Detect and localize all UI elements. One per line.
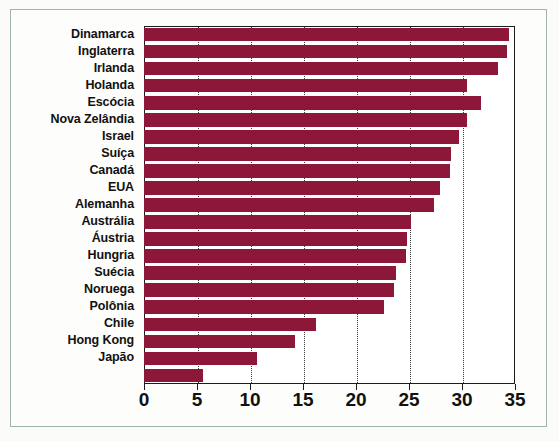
- bar-row: [144, 266, 515, 280]
- bar-row: [144, 113, 515, 127]
- category-label: EUA: [108, 181, 134, 194]
- category-label: Hungria: [87, 249, 134, 262]
- x-tick-label: 10: [239, 389, 260, 411]
- category-label: Dinamarca: [71, 28, 134, 41]
- bar-row: [144, 369, 515, 383]
- category-label: Suécia: [94, 266, 134, 279]
- bar: [144, 79, 467, 93]
- bar-row: [144, 96, 515, 110]
- bar: [144, 318, 316, 332]
- category-label: Israel: [102, 130, 134, 143]
- bar: [144, 28, 509, 42]
- category-label: Hong Kong: [68, 334, 134, 347]
- bar-row: [144, 335, 515, 349]
- y-axis-category-labels: DinamarcaInglaterraIrlandaHolandaEscócia…: [0, 26, 140, 384]
- x-tick-label: 0: [139, 389, 150, 411]
- bar-row: [144, 318, 515, 332]
- x-tick-label: 30: [451, 389, 472, 411]
- category-label: Áustria: [92, 232, 134, 245]
- bar: [144, 113, 467, 127]
- bar-row: [144, 249, 515, 263]
- bar-row: [144, 232, 515, 246]
- category-label: Suíça: [101, 147, 134, 160]
- category-label: Chile: [104, 317, 134, 330]
- bar: [144, 45, 507, 59]
- category-label: Irlanda: [94, 62, 134, 75]
- x-tick-label: 35: [504, 389, 525, 411]
- bar: [144, 198, 434, 212]
- bar: [144, 62, 498, 76]
- bar-row: [144, 147, 515, 161]
- category-label: Polônia: [90, 300, 134, 313]
- category-label: Noruega: [84, 283, 134, 296]
- category-label: Japão: [98, 351, 134, 364]
- bar-row: [144, 181, 515, 195]
- category-label: Nova Zelândia: [51, 113, 134, 126]
- category-label: Holanda: [85, 79, 134, 92]
- category-label: Canadá: [89, 164, 134, 177]
- bar: [144, 335, 295, 349]
- bar-chart: DinamarcaInglaterraIrlandaHolandaEscócia…: [0, 0, 559, 441]
- x-tick-label: 15: [292, 389, 313, 411]
- category-label: Escócia: [87, 96, 134, 109]
- bar-row: [144, 28, 515, 42]
- bar: [144, 96, 481, 110]
- bar: [144, 181, 440, 195]
- bar-row: [144, 79, 515, 93]
- bar: [144, 164, 450, 178]
- bar: [144, 300, 384, 314]
- bar-row: [144, 45, 515, 59]
- bar-row: [144, 62, 515, 76]
- bar: [144, 369, 203, 383]
- bar: [144, 266, 396, 280]
- bars-layer: [144, 26, 515, 384]
- bar-row: [144, 164, 515, 178]
- x-tick-label: 5: [192, 389, 203, 411]
- x-tick-label: 20: [345, 389, 366, 411]
- category-label: Alemanha: [75, 198, 134, 211]
- bar-row: [144, 300, 515, 314]
- bar: [144, 147, 451, 161]
- category-label: Inglaterra: [78, 45, 134, 58]
- bar-row: [144, 130, 515, 144]
- x-tick-label: 25: [398, 389, 419, 411]
- bar: [144, 352, 257, 366]
- bar-row: [144, 352, 515, 366]
- bar-row: [144, 283, 515, 297]
- bar: [144, 283, 394, 297]
- bar: [144, 249, 406, 263]
- chart-page: DinamarcaInglaterraIrlandaHolandaEscócia…: [0, 0, 559, 441]
- bar: [144, 130, 459, 144]
- bar-row: [144, 215, 515, 229]
- category-label: Austrália: [81, 215, 134, 228]
- bar: [144, 232, 407, 246]
- bar-row: [144, 198, 515, 212]
- bar: [144, 215, 411, 229]
